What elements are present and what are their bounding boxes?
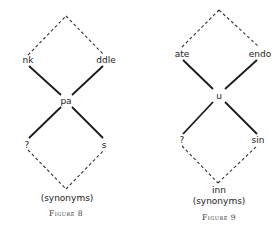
dashed-edge [66, 16, 104, 55]
solid-edge [183, 60, 213, 89]
node-top-right: ddle [96, 55, 116, 65]
figure-caption: Figure 8 [49, 209, 83, 218]
dashed-edge [28, 16, 66, 55]
figure-8: nk ddle pa ? s (synonyms) Figure 8 [23, 16, 117, 218]
dashed-edge [219, 10, 259, 47]
node-bottom-left: ? [25, 140, 30, 150]
solid-edge [183, 102, 213, 134]
dashed-edge [66, 150, 104, 189]
solid-edge [72, 107, 103, 138]
solid-edge [225, 60, 257, 89]
solid-edge [29, 107, 61, 138]
node-bottom: inn [212, 185, 226, 195]
solid-edge [29, 66, 61, 95]
node-top-left: nk [23, 55, 35, 65]
figure-caption: Figure 9 [202, 213, 236, 222]
synonyms-note: (synonyms) [41, 193, 94, 203]
synonyms-note: (synonyms) [193, 196, 246, 206]
dashed-edge [182, 146, 218, 183]
dashed-edge [218, 146, 257, 183]
node-top-right: endo [249, 49, 272, 59]
solid-edge [225, 102, 257, 134]
node-top-left: ate [175, 49, 190, 59]
node-bottom-left: ? [180, 135, 185, 145]
dashed-edge [182, 10, 219, 47]
solid-edge [72, 66, 103, 95]
node-bottom-right: sin [252, 135, 265, 145]
dashed-edge [28, 150, 66, 189]
node-center: u [216, 91, 222, 101]
figure-9: ate endo u ? sin inn (synonyms) Figure 9 [175, 10, 272, 222]
node-bottom-right: s [102, 140, 107, 150]
diagram-canvas: nk ddle pa ? s (synonyms) Figure 8 ate e… [0, 0, 278, 232]
node-center: pa [60, 96, 71, 106]
